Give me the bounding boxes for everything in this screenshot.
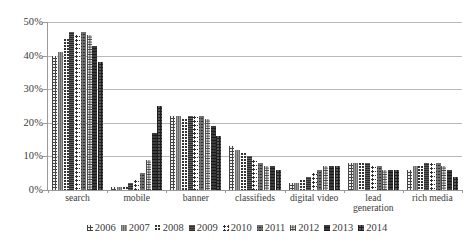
bar <box>199 116 204 190</box>
y-axis-tick-label: 30% <box>3 84 43 95</box>
bar <box>258 163 263 190</box>
x-axis-category-label: mobile <box>107 193 166 213</box>
bar-group <box>107 22 166 190</box>
legend-swatch-icon <box>257 225 263 231</box>
bar <box>365 163 370 190</box>
bar <box>447 170 452 190</box>
bar <box>157 106 162 190</box>
x-axis-tick <box>48 190 49 193</box>
bar <box>152 133 157 190</box>
x-axis-category-line: banner <box>166 193 225 203</box>
legend-swatch-icon <box>290 225 296 231</box>
legend-label: 2011 <box>265 222 286 233</box>
legend-label: 2006 <box>95 222 116 233</box>
bar <box>323 166 328 190</box>
legend-swatch-icon <box>324 225 330 231</box>
legend-item[interactable]: 2013 <box>324 222 353 233</box>
bar <box>441 166 446 190</box>
bar <box>58 52 63 190</box>
bar <box>270 166 275 190</box>
x-axis-tick <box>344 190 345 193</box>
bar <box>176 116 181 190</box>
bar <box>294 183 299 190</box>
y-axis-tick-label: 20% <box>3 118 43 129</box>
legend-item[interactable]: 2006 <box>87 222 116 233</box>
x-axis-category-label: rich media <box>403 193 462 213</box>
bar <box>382 170 387 190</box>
bar-chart: 0%10%20%30%40%50% searchmobilebannerclas… <box>0 0 474 244</box>
bar <box>182 119 187 190</box>
legend-label: 2010 <box>231 222 252 233</box>
bar <box>418 166 423 190</box>
bar <box>134 180 139 190</box>
bar <box>98 62 103 190</box>
bar <box>353 163 358 190</box>
y-axis: 0%10%20%30%40%50% <box>0 22 43 190</box>
bar <box>117 187 122 190</box>
bar <box>306 177 311 190</box>
bar <box>146 160 151 190</box>
x-axis-category-label: search <box>48 193 107 213</box>
bar <box>75 35 80 190</box>
bar <box>52 56 57 190</box>
bar <box>348 163 353 190</box>
bar <box>264 166 269 190</box>
legend-label: 2009 <box>197 222 218 233</box>
x-axis-category-label: leadgeneration <box>344 193 403 213</box>
x-axis-category-label: classifieds <box>225 193 284 213</box>
bar-group <box>344 22 403 190</box>
legend-label: 2013 <box>332 222 353 233</box>
chart-legend: 200620072008200920102011201220132014 <box>0 222 474 233</box>
x-axis-tick <box>166 190 167 193</box>
bar <box>300 180 305 190</box>
x-axis-category-line: search <box>48 193 107 203</box>
legend-item[interactable]: 2014 <box>358 222 387 233</box>
bar <box>430 163 435 190</box>
bar <box>371 166 376 190</box>
bar <box>87 35 92 190</box>
bar-groups <box>48 22 462 190</box>
legend-swatch-icon <box>223 225 229 231</box>
bar <box>188 116 193 190</box>
bar <box>247 156 252 190</box>
legend-swatch-icon <box>189 225 195 231</box>
legend-item[interactable]: 2012 <box>290 222 319 233</box>
bar-group <box>48 22 107 190</box>
legend-item[interactable]: 2008 <box>155 222 184 233</box>
bar <box>289 183 294 190</box>
y-axis-tick-label: 40% <box>3 51 43 62</box>
legend-swatch-icon <box>358 225 364 231</box>
legend-item[interactable]: 2009 <box>189 222 218 233</box>
bar <box>81 32 86 190</box>
legend-item[interactable]: 2007 <box>121 222 150 233</box>
bar-group <box>166 22 225 190</box>
bar <box>216 136 221 190</box>
x-axis-category-label: digital video <box>285 193 344 213</box>
bar <box>205 119 210 190</box>
bar <box>128 183 133 190</box>
legend-item[interactable]: 2010 <box>223 222 252 233</box>
legend-swatch-icon <box>121 225 127 231</box>
bar-group <box>403 22 462 190</box>
legend-swatch-icon <box>87 225 93 231</box>
bar <box>377 166 382 190</box>
x-axis-tick <box>462 190 463 193</box>
bar <box>317 170 322 190</box>
bar <box>211 126 216 190</box>
bar <box>252 160 257 190</box>
bar <box>69 32 74 190</box>
bar <box>413 166 418 190</box>
bar <box>335 166 340 190</box>
legend-label: 2012 <box>298 222 319 233</box>
bar <box>235 150 240 190</box>
legend-item[interactable]: 2011 <box>257 222 286 233</box>
bar <box>312 173 317 190</box>
x-axis-tick <box>107 190 108 193</box>
bar <box>140 173 145 190</box>
x-axis-category-line: rich media <box>403 193 462 203</box>
bar <box>111 187 116 190</box>
bar <box>436 163 441 190</box>
bar <box>92 46 97 190</box>
bar <box>407 170 412 190</box>
y-axis-tick-label: 50% <box>3 17 43 28</box>
